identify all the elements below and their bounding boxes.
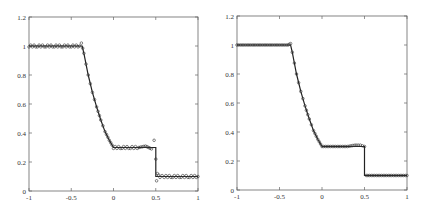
x-tick-label: -1 — [26, 194, 32, 202]
y-tick-label: 0 — [23, 188, 27, 196]
x-tick-label: -1 — [234, 193, 240, 201]
chart-canvas: -1-0.500.5100.20.40.60.811.2-1-0.500.510… — [0, 0, 421, 206]
x-tick-label: 1 — [196, 194, 200, 202]
x-tick-label: 0.5 — [360, 193, 369, 201]
x-tick-label: -0.5 — [274, 193, 286, 201]
y-tick-label: 0.4 — [225, 129, 234, 137]
y-tick-label: 0.2 — [17, 159, 26, 167]
numerical-markers — [28, 42, 200, 182]
y-tick-label: 1 — [23, 43, 27, 51]
y-tick-label: 1.2 — [225, 13, 234, 21]
y-tick-label: 0.6 — [225, 100, 234, 108]
y-tick-label: 0.6 — [17, 101, 26, 109]
y-tick-label: 1 — [231, 42, 235, 50]
numerical-markers — [236, 42, 409, 177]
exact-solution-line — [237, 45, 407, 176]
y-tick-label: 0.2 — [225, 158, 234, 166]
x-tick-label: 0.5 — [151, 194, 160, 202]
plot-panel-2: -1-0.500.5100.20.40.60.811.2 — [225, 13, 409, 202]
y-tick-label: 0.8 — [17, 72, 26, 80]
axes-frame — [29, 17, 198, 191]
x-tick-label: 0 — [320, 193, 324, 201]
x-tick-label: 0 — [112, 194, 116, 202]
y-tick-label: 0.4 — [17, 130, 26, 138]
x-tick-label: 1 — [405, 193, 409, 201]
y-tick-label: 0 — [231, 187, 235, 195]
y-tick-label: 0.8 — [225, 71, 234, 79]
plot-panel-1: -1-0.500.5100.20.40.60.811.2 — [17, 14, 200, 203]
x-tick-label: -0.5 — [66, 194, 78, 202]
exact-solution-line — [29, 46, 198, 177]
y-tick-label: 1.2 — [17, 14, 26, 22]
axes-frame — [237, 16, 407, 190]
